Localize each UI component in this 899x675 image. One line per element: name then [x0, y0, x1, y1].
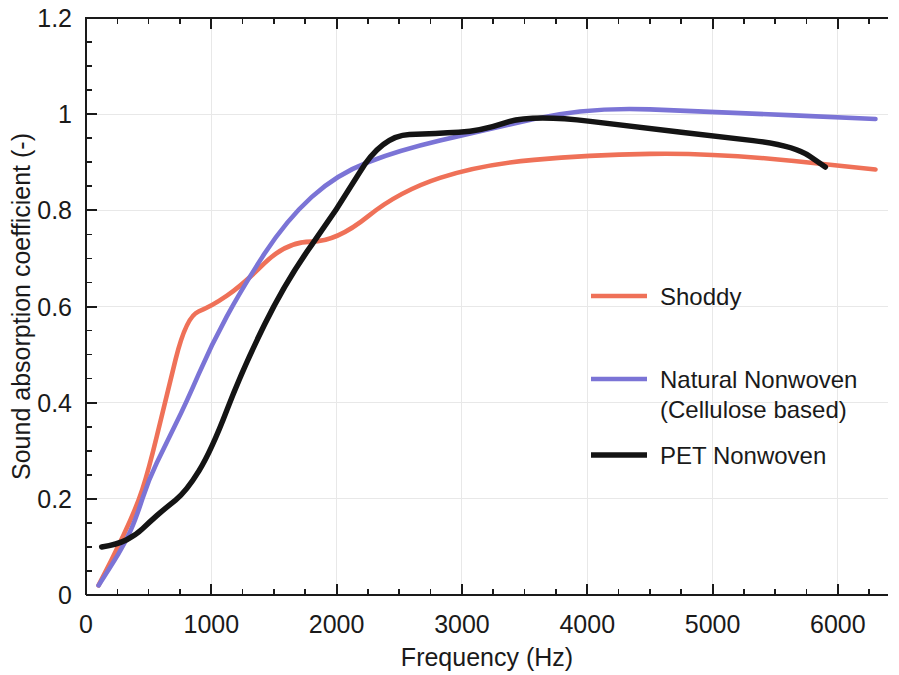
data-series-group	[99, 109, 876, 585]
line-chart: 0100020003000400050006000 00.20.40.60.81…	[0, 0, 899, 675]
legend-label: Natural Nonwoven	[660, 366, 857, 393]
x-tick-label: 0	[79, 610, 93, 638]
y-tick-label: 1	[58, 100, 72, 128]
chart-figure: 0100020003000400050006000 00.20.40.60.81…	[0, 0, 899, 675]
series-line-pet-nonwoven	[102, 118, 826, 547]
x-tick-label: 6000	[810, 610, 866, 638]
y-tick-label: 0.6	[37, 293, 72, 321]
legend-item: Shoddy	[591, 283, 741, 310]
x-tick-label: 5000	[685, 610, 741, 638]
y-tick-label: 0.2	[37, 485, 72, 513]
y-tick-label: 1.2	[37, 4, 72, 32]
chart-legend: ShoddyNatural Nonwoven(Cellulose based)P…	[591, 283, 857, 469]
y-axis-tick-labels: 00.20.40.60.811.2	[37, 4, 72, 609]
x-axis-title: Frequency (Hz)	[401, 643, 573, 671]
y-tick-label: 0	[58, 581, 72, 609]
legend-label: PET Nonwoven	[660, 442, 826, 469]
y-axis-title: Sound absorption coefficient (-)	[7, 133, 35, 480]
x-tick-label: 4000	[559, 610, 615, 638]
legend-item: PET Nonwoven	[591, 442, 826, 469]
x-tick-label: 3000	[434, 610, 490, 638]
legend-item: Natural Nonwoven(Cellulose based)	[591, 366, 857, 423]
legend-label: Shoddy	[660, 283, 741, 310]
series-line-natural-nonwoven-cellulose-based	[99, 109, 876, 585]
x-tick-label: 2000	[309, 610, 365, 638]
y-tick-label: 0.4	[37, 389, 72, 417]
legend-label: (Cellulose based)	[660, 396, 847, 423]
x-axis-tick-labels: 0100020003000400050006000	[79, 610, 866, 638]
x-tick-label: 1000	[184, 610, 240, 638]
y-tick-label: 0.8	[37, 196, 72, 224]
